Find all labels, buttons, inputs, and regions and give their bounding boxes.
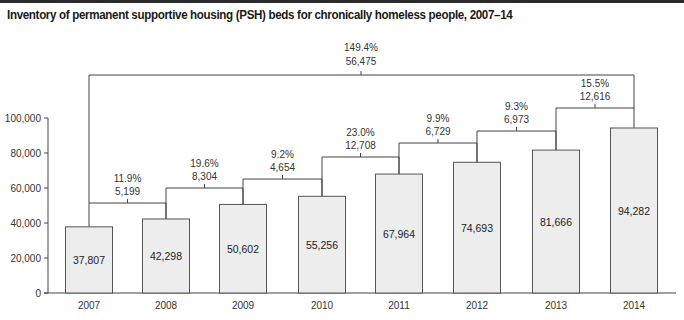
x-tick-label: 2007	[78, 300, 101, 311]
change-count: 12,616	[580, 91, 611, 102]
x-tick-label: 2014	[623, 300, 646, 311]
x-tick-label: 2008	[155, 300, 178, 311]
bar-value-label: 67,964	[383, 228, 415, 240]
x-tick-label: 2013	[545, 300, 568, 311]
change-percent: 11.9%	[114, 173, 142, 184]
bar-chart: 020,00040,00060,00080,000100,00020072008…	[0, 0, 684, 320]
change-count: 5,199	[115, 186, 140, 197]
change-count: 8,304	[192, 171, 217, 182]
bars: 37,80742,29850,60255,25667,96474,69381,6…	[66, 128, 658, 293]
bar-value-label: 94,282	[618, 205, 650, 217]
overall-change-count: 56,475	[346, 56, 377, 67]
bar-value-label: 81,666	[540, 216, 572, 228]
overall-change-percent: 149.4%	[344, 42, 378, 53]
change-percent: 15.5%	[581, 78, 609, 89]
bar-value-label: 37,807	[73, 254, 105, 266]
change-percent: 9.9%	[427, 113, 450, 124]
bar-value-label: 42,298	[150, 250, 182, 262]
change-count: 6,729	[425, 126, 450, 137]
x-tick-label: 2010	[311, 300, 334, 311]
x-tick-label: 2011	[388, 300, 410, 311]
change-count: 6,973	[504, 114, 529, 125]
bar-value-label: 74,693	[461, 222, 493, 234]
y-tick-label: 80,000	[10, 148, 41, 159]
bar-value-label: 55,256	[306, 239, 338, 251]
y-tick-label: 100,000	[5, 113, 42, 124]
y-tick-label: 60,000	[10, 183, 41, 194]
y-tick-label: 0	[35, 288, 41, 299]
change-count: 4,654	[270, 162, 295, 173]
change-count: 12,708	[345, 140, 376, 151]
change-percent: 9.3%	[505, 101, 528, 112]
change-percent: 19.6%	[190, 158, 218, 169]
bar-value-label: 50,602	[227, 243, 259, 255]
x-tick-label: 2012	[466, 300, 489, 311]
change-percent: 9.2%	[271, 149, 294, 160]
y-tick-label: 20,000	[10, 253, 41, 264]
change-percent: 23.0%	[346, 127, 374, 138]
y-tick-label: 40,000	[10, 218, 41, 229]
x-tick-label: 2009	[232, 300, 255, 311]
